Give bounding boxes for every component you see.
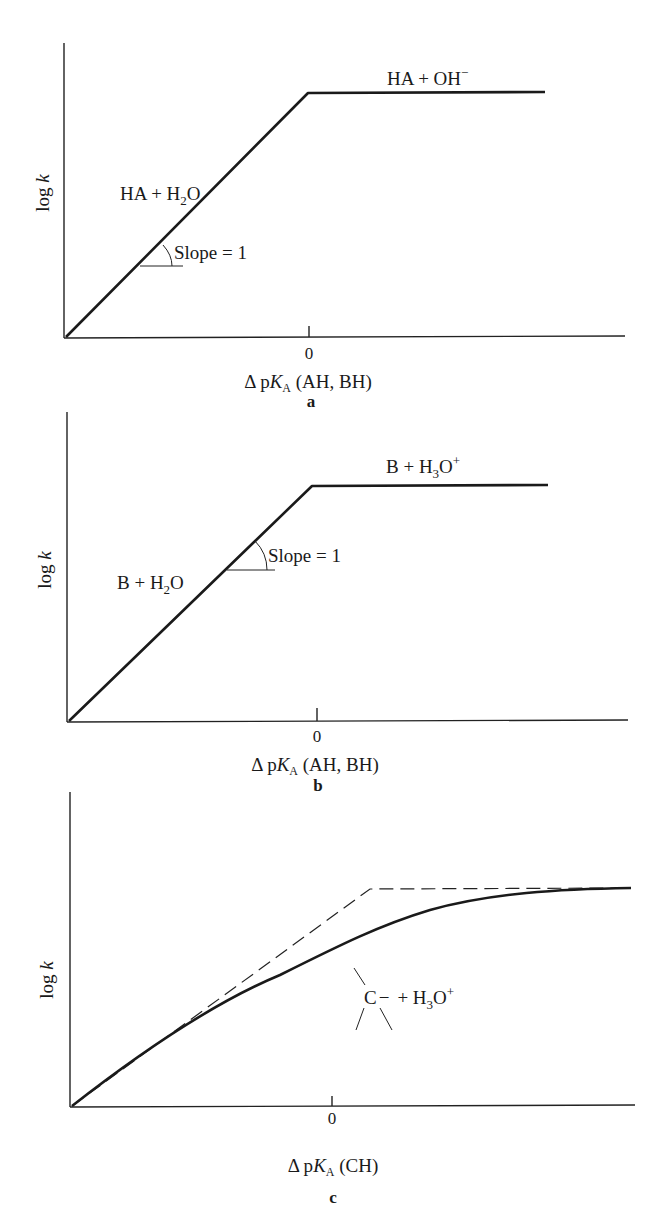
x-tick-label: 0	[313, 727, 322, 746]
panel-a: Slope = 1 HA + H2O HA + OH− 0 Δ pKA (AH,…	[32, 43, 625, 411]
slope-label: Slope = 1	[174, 242, 247, 263]
limiting-dashed-line	[72, 888, 631, 1106]
x-tick-label: 0	[305, 344, 314, 363]
x-axis-label: Δ pKA (AH, BH)	[251, 754, 379, 778]
rate-line	[66, 92, 545, 337]
panel-label: a	[307, 392, 316, 411]
figure: Slope = 1 HA + H2O HA + OH− 0 Δ pKA (AH,…	[0, 0, 662, 1225]
bond-lower-right	[380, 1008, 392, 1030]
x-axis	[64, 336, 625, 338]
slope-label: Slope = 1	[268, 545, 341, 566]
x-tick-label: 0	[328, 1109, 337, 1128]
slope-arc	[163, 245, 172, 266]
rate-line	[69, 485, 548, 721]
y-axis-label: log k	[36, 961, 57, 999]
x-axis-label: Δ pKA (CH)	[288, 1155, 379, 1179]
bond-upper	[354, 968, 365, 985]
carbanion-label: C−+ H3O+	[354, 968, 454, 1030]
low-region-label: B + H2O	[117, 572, 184, 597]
y-axis-label: log k	[32, 174, 53, 212]
low-region-label: HA + H2O	[120, 183, 201, 208]
panel-label: b	[313, 776, 322, 795]
x-axis	[70, 1105, 635, 1107]
svg-text:C−+ H3O+: C−+ H3O+	[364, 984, 454, 1012]
panel-b: Slope = 1 B + H2O B + H3O+ 0 Δ pKA (AH, …	[34, 412, 628, 795]
panel-c: C−+ H3O+ 0 Δ pKA (CH) c log k	[36, 792, 635, 1207]
bond-lower-left	[356, 1008, 364, 1030]
high-region-label: B + H3O+	[386, 453, 460, 481]
panel-label: c	[329, 1188, 337, 1207]
x-axis	[67, 720, 628, 722]
y-axis-label: log k	[34, 551, 55, 589]
observed-curve	[72, 888, 631, 1106]
high-region-label: HA + OH−	[387, 65, 468, 89]
slope-arc	[255, 541, 267, 570]
